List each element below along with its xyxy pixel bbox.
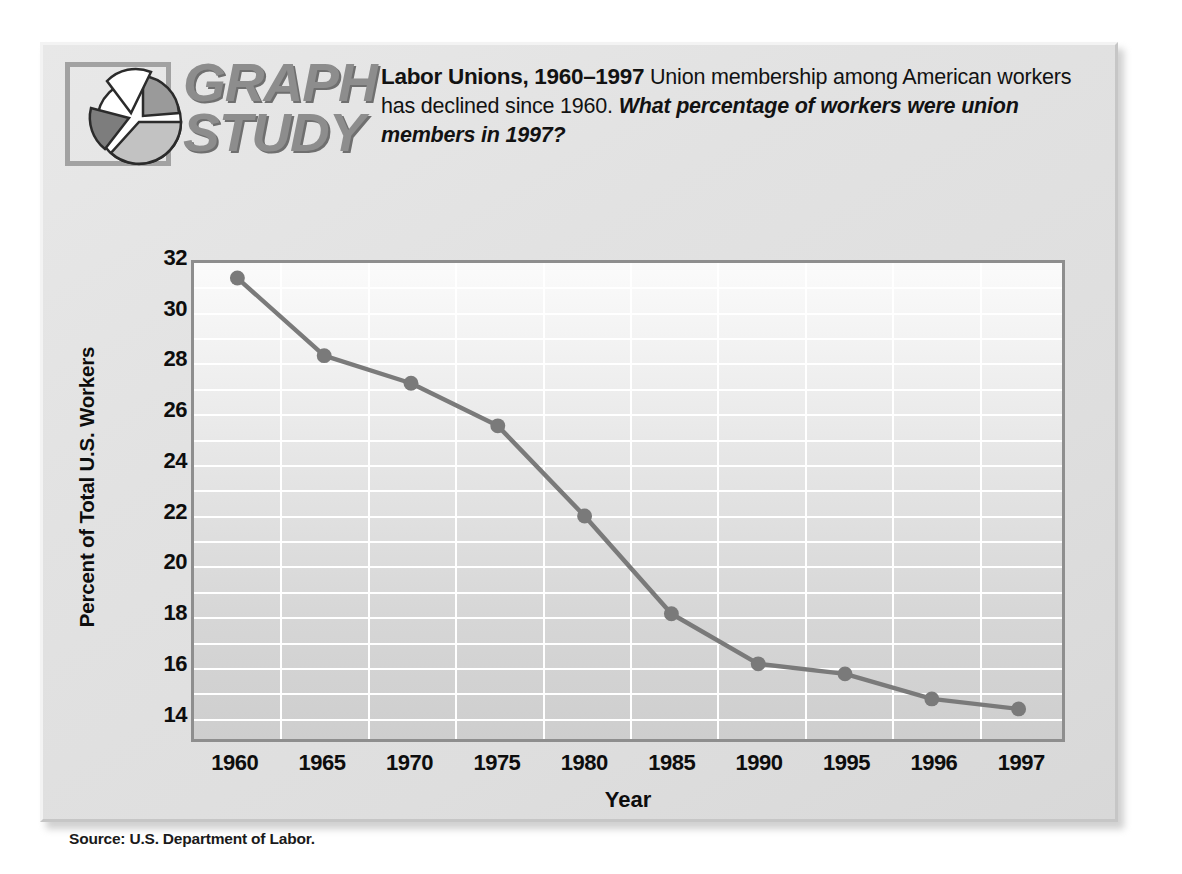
pie-chart-logo-icon xyxy=(77,65,195,170)
y-tick-label: 28 xyxy=(164,346,187,372)
y-tick-label: 30 xyxy=(164,296,187,322)
y-tick-label: 26 xyxy=(164,397,187,423)
y-axis-label: Percent of Total U.S. Workers xyxy=(75,287,99,687)
data-point-marker xyxy=(751,656,766,671)
chart-title: Labor Unions, 1960–1997 xyxy=(381,64,644,89)
x-tick-label: 1990 xyxy=(736,750,783,776)
x-tick-label: 1985 xyxy=(648,750,695,776)
x-tick-label: 1980 xyxy=(561,750,608,776)
x-axis-ticks: 1960196519701975198019851990199519961997 xyxy=(191,750,1065,782)
x-tick-label: 1960 xyxy=(211,750,258,776)
data-point-marker xyxy=(924,692,939,707)
headline-paragraph: Labor Unions, 1960–1997 Union membership… xyxy=(381,62,1103,149)
y-tick-label: 20 xyxy=(164,549,187,575)
y-tick-label: 24 xyxy=(164,448,187,474)
x-tick-label: 1995 xyxy=(823,750,870,776)
data-point-marker xyxy=(230,271,245,286)
y-tick-label: 22 xyxy=(164,499,187,525)
x-tick-label: 1975 xyxy=(473,750,520,776)
y-tick-label: 18 xyxy=(164,600,187,626)
screenshot-root: GRAPH STUDY Labor Unions, 1960–1997 Unio… xyxy=(0,0,1182,874)
wordmark-line-graph: GRAPH xyxy=(183,57,382,107)
x-tick-label: 1965 xyxy=(299,750,346,776)
x-tick-label: 1997 xyxy=(998,750,1045,776)
x-axis-label: Year xyxy=(191,787,1065,813)
x-tick-label: 1970 xyxy=(386,750,433,776)
series-line xyxy=(237,278,1018,709)
card-header: GRAPH STUDY Labor Unions, 1960–1997 Unio… xyxy=(43,45,1121,175)
data-point-marker xyxy=(490,418,505,433)
data-point-marker xyxy=(317,348,332,363)
plot-area xyxy=(191,260,1065,742)
data-point-marker xyxy=(404,376,419,391)
graph-study-wordmark: GRAPH STUDY xyxy=(183,57,378,169)
y-tick-label: 14 xyxy=(164,702,187,728)
source-note: Source: U.S. Department of Labor. xyxy=(69,830,315,848)
y-axis-ticks: 32302826242220181614 xyxy=(139,258,187,740)
headline-block: Labor Unions, 1960–1997 Union membership… xyxy=(381,62,1103,149)
line-series xyxy=(194,263,1062,739)
chart-area: Percent of Total U.S. Workers 3230282624… xyxy=(43,175,1121,825)
data-point-marker xyxy=(664,606,679,621)
data-point-marker xyxy=(1011,702,1026,717)
data-point-marker xyxy=(838,666,853,681)
x-tick-label: 1996 xyxy=(910,750,957,776)
wordmark-line-study: STUDY xyxy=(183,107,382,157)
graph-study-card: GRAPH STUDY Labor Unions, 1960–1997 Unio… xyxy=(40,42,1118,822)
y-tick-label: 32 xyxy=(164,245,187,271)
y-tick-label: 16 xyxy=(164,651,187,677)
data-point-marker xyxy=(577,509,592,524)
